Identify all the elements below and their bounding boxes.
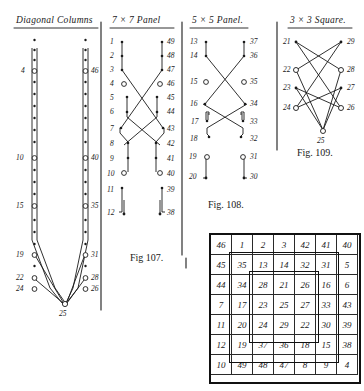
square3-bottom-label-25: 25	[317, 136, 325, 145]
panel5-left-label-18: 18	[190, 134, 198, 143]
cell-r0c6: 40	[337, 235, 358, 255]
panel7-right-label-43: 43	[167, 124, 175, 133]
panel5-left-label-16: 16	[190, 99, 198, 108]
diagonal-left-label-19: 19	[16, 250, 24, 259]
panel5-right-label-31: 31	[250, 152, 258, 161]
cell-r4c1: 20	[232, 315, 253, 335]
cell-r4c4: 22	[295, 315, 316, 335]
diagonal-left-label-4: 4	[21, 66, 25, 75]
panel5-left-label-14: 14	[190, 51, 198, 60]
table-row: 45 35 13 14 32 31 5	[211, 255, 358, 275]
cell-r0c5: 41	[316, 235, 337, 255]
table-row: 11 20 24 29 22 30 39	[211, 315, 358, 335]
square3-left-label-23: 23	[283, 83, 291, 92]
cell-r2c5: 16	[316, 275, 337, 295]
panel7-left-label-12: 12	[107, 208, 115, 217]
diagonal-converge	[36, 257, 84, 303]
cell-r5c5: 15	[316, 335, 337, 355]
panel7-left-label-5: 5	[110, 93, 114, 102]
heading-diagonal-columns: Diagonal Columns	[16, 15, 93, 25]
table-row: 46 1 2 3 42 41 40	[211, 235, 358, 255]
panel7-left-label-7: 7	[110, 124, 114, 133]
cell-r0c4: 42	[295, 235, 316, 255]
panel7-right-label-38: 38	[167, 208, 175, 217]
cell-r1c4: 32	[295, 255, 316, 275]
panel7-right-label-41: 41	[167, 154, 175, 163]
cell-r1c1: 35	[232, 255, 253, 275]
panel7-right-label-49: 49	[167, 37, 175, 46]
cell-r0c2: 2	[253, 235, 274, 255]
diagonal-right-label-35: 35	[91, 201, 99, 210]
panel5-left-label-19: 19	[189, 152, 197, 161]
cell-r4c6: 39	[337, 315, 358, 335]
cell-r2c6: 6	[337, 275, 358, 295]
cell-r3c2: 23	[253, 295, 274, 315]
cell-r2c1: 34	[232, 275, 253, 295]
diagonal-nodes	[32, 69, 88, 307]
cell-r5c3: 36	[274, 335, 295, 355]
cell-r1c3: 14	[274, 255, 295, 275]
cell-r5c2: 37	[253, 335, 274, 355]
cell-r5c6: 38	[337, 335, 358, 355]
cell-r6c6: 4	[337, 355, 358, 375]
heading-7x7-panel: 7 × 7 Panel	[112, 15, 161, 25]
square3-art	[296, 42, 341, 130]
panel5-nodes	[204, 80, 247, 160]
caption-fig-109: Fig. 109.	[297, 147, 333, 158]
caption-fig-107: Fig 107.	[130, 252, 163, 263]
diagonal-right-label-46: 46	[91, 66, 99, 75]
cell-r6c1: 49	[232, 355, 253, 375]
cell-r0c0: 46	[211, 235, 232, 255]
table-row: 44 34 28 21 26 16 6	[211, 275, 358, 295]
square3-right-label-26: 26	[347, 103, 355, 112]
panel7-left-label-9: 9	[110, 154, 114, 163]
cell-r3c5: 33	[316, 295, 337, 315]
diagonal-right-label-40: 40	[91, 153, 99, 162]
heading-5x5-panel: 5 × 5 Panel.	[192, 15, 243, 25]
cell-r6c3: 47	[274, 355, 295, 375]
cell-r5c1: 19	[232, 335, 253, 355]
table-row: 10 49 48 47 8 9 4	[211, 355, 358, 375]
panel5-right-label-32: 32	[250, 134, 258, 143]
panel7-left-label-4: 4	[110, 79, 114, 88]
panel7-left-label-8: 8	[110, 139, 114, 148]
panel7-right-label-42: 42	[167, 139, 175, 148]
panel7-right-label-44: 44	[167, 107, 175, 116]
cell-r6c2: 48	[253, 355, 274, 375]
panel5-right-label-35: 35	[250, 77, 258, 86]
square3-left-label-22: 22	[283, 65, 291, 74]
panel7-right-label-39: 39	[167, 185, 175, 194]
diagonal-left-label-22: 22	[16, 273, 24, 282]
cell-r1c5: 31	[316, 255, 337, 275]
panel7-left-label-6: 6	[110, 107, 114, 116]
cell-r1c6: 5	[337, 255, 358, 275]
cell-r3c4: 27	[295, 295, 316, 315]
diagonal-right-label-28: 28	[91, 273, 99, 282]
cell-r2c4: 26	[295, 275, 316, 295]
panel5-left-label-17: 17	[191, 117, 199, 126]
cell-r1c2: 13	[253, 255, 274, 275]
panel7-right-label-45: 45	[167, 93, 175, 102]
heading-3x3-square: 3 × 3 Square.	[290, 15, 346, 25]
cell-r3c6: 43	[337, 295, 358, 315]
panel7-left-label-11: 11	[107, 185, 114, 194]
cell-r3c0: 7	[211, 295, 232, 315]
cell-r6c4: 8	[295, 355, 316, 375]
cell-r2c3: 21	[274, 275, 295, 295]
panel7-right-label-40: 40	[167, 169, 175, 178]
cell-r4c2: 24	[253, 315, 274, 335]
panel5-left-label-20: 20	[189, 172, 197, 181]
panel7-left-label-1: 1	[110, 37, 114, 46]
panel7-left-label-2: 2	[110, 51, 114, 60]
diagonal-bottom-label-25: 25	[59, 309, 67, 318]
panel7-left-label-3: 3	[110, 65, 114, 74]
cell-r5c0: 12	[211, 335, 232, 355]
caption-fig-108: Fig. 108.	[208, 199, 244, 210]
magic-square-table: 46 1 2 3 42 41 40 45 35 13 14 32 31 5	[210, 234, 358, 375]
square3-right-label-27: 27	[347, 83, 355, 92]
panel5-right-label-34: 34	[250, 99, 258, 108]
panel7-dots	[120, 41, 165, 216]
panel7-right-label-47: 47	[167, 65, 175, 74]
panel5-left-label-13: 13	[190, 37, 198, 46]
cell-r4c5: 30	[316, 315, 337, 335]
